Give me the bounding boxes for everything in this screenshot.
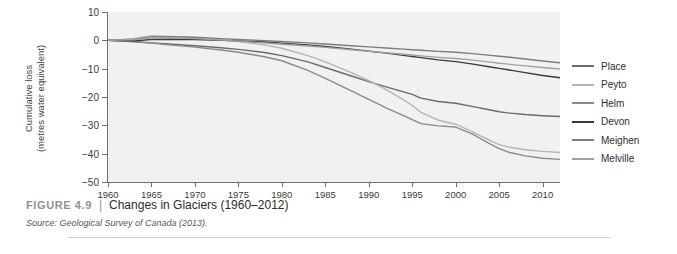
x-tick-mark <box>456 182 457 187</box>
chart-legend: PlacePeytoHelmDevonMeighenMelville <box>572 57 677 168</box>
legend-label: Peyto <box>601 79 627 90</box>
data-lines <box>108 12 560 182</box>
x-axis-line <box>107 182 560 183</box>
y-tick-label: −20 <box>82 92 99 103</box>
y-tick-label: 0 <box>93 35 99 46</box>
caption-separator: | <box>99 198 102 212</box>
legend-swatch-icon <box>572 158 594 160</box>
x-tick-mark <box>108 182 109 187</box>
y-tick-label: −30 <box>82 120 99 131</box>
legend-item-place[interactable]: Place <box>572 57 677 76</box>
figure-title: Changes in Glaciers (1960–2012) <box>109 198 288 212</box>
legend-swatch-icon <box>572 102 594 104</box>
series-line-meighen <box>108 37 560 63</box>
y-tick-label: −40 <box>82 148 99 159</box>
y-tick-label: −50 <box>82 177 99 188</box>
y-axis-title-line2: (metres water equivalent) <box>35 44 46 151</box>
legend-label: Meighen <box>601 135 639 146</box>
x-tick-mark <box>543 182 544 187</box>
footer-divider <box>68 237 610 238</box>
x-tick-mark <box>325 182 326 187</box>
x-tick-mark <box>499 182 500 187</box>
y-axis-title-line1: Cumulative loss <box>24 64 35 131</box>
x-tick-mark <box>412 182 413 187</box>
figure-caption: FIGURE 4.9 | Changes in Glaciers (1960–2… <box>26 198 656 228</box>
legend-label: Place <box>601 61 626 72</box>
x-tick-mark <box>369 182 370 187</box>
y-axis-title: Cumulative loss (metres water equivalent… <box>14 18 56 178</box>
y-tick-label: 10 <box>88 7 99 18</box>
y-tick-label: −10 <box>82 63 99 74</box>
x-tick-mark <box>195 182 196 187</box>
legend-label: Melville <box>601 153 634 164</box>
legend-item-helm[interactable]: Helm <box>572 94 677 113</box>
series-line-place <box>108 40 560 116</box>
figure-number: FIGURE 4.9 <box>26 199 92 211</box>
legend-swatch-icon <box>572 84 594 86</box>
legend-label: Helm <box>601 98 624 109</box>
legend-item-devon[interactable]: Devon <box>572 113 677 132</box>
legend-swatch-icon <box>572 121 594 123</box>
legend-swatch-icon <box>572 65 594 67</box>
legend-swatch-icon <box>572 139 594 141</box>
series-line-melville <box>108 38 560 69</box>
x-tick-mark <box>282 182 283 187</box>
x-tick-mark <box>151 182 152 187</box>
series-line-peyto <box>108 36 560 153</box>
x-tick-mark <box>238 182 239 187</box>
plot-region: 100−10−20−30−40−50 196019651970197519801… <box>108 12 560 182</box>
figure-container: Cumulative loss (metres water equivalent… <box>0 0 677 254</box>
figure-source: Source: Geological Survey of Canada (201… <box>26 218 656 228</box>
legend-label: Devon <box>601 116 630 127</box>
legend-item-melville[interactable]: Melville <box>572 150 677 169</box>
legend-item-meighen[interactable]: Meighen <box>572 131 677 150</box>
legend-item-peyto[interactable]: Peyto <box>572 76 677 95</box>
